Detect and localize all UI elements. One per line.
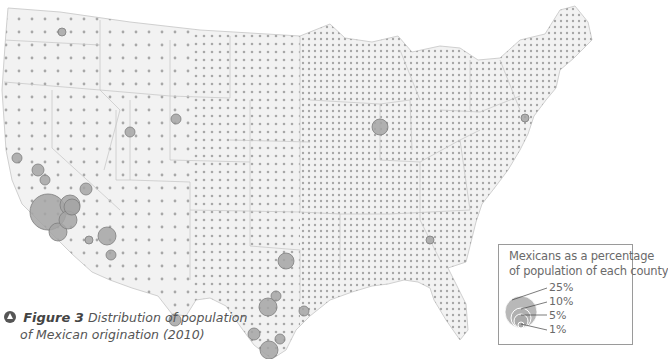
county-symbol bbox=[32, 164, 44, 176]
legend-circle-1 bbox=[518, 322, 524, 328]
county-symbol bbox=[85, 236, 93, 244]
county-symbol bbox=[372, 119, 388, 135]
legend-label-10: 10% bbox=[549, 295, 573, 308]
legend-label-5: 5% bbox=[549, 309, 566, 322]
county-symbol bbox=[299, 306, 309, 316]
legend-label-25: 25% bbox=[549, 281, 573, 294]
county-symbol bbox=[40, 175, 50, 185]
county-symbol bbox=[521, 114, 529, 122]
county-symbol bbox=[275, 334, 285, 344]
county-symbol bbox=[171, 114, 181, 124]
county-symbol bbox=[106, 250, 116, 260]
county-symbol bbox=[12, 153, 22, 163]
county-symbol bbox=[248, 328, 260, 340]
county-symbol bbox=[260, 341, 278, 359]
figure-title-line1: Distribution of population bbox=[88, 310, 247, 325]
legend: Mexicans as a percentage of population o… bbox=[498, 244, 633, 345]
figure-label: Figure 3 bbox=[23, 310, 84, 325]
county-symbol bbox=[58, 28, 66, 36]
county-symbol bbox=[426, 236, 434, 244]
legend-label-1: 1% bbox=[549, 323, 566, 336]
county-symbol bbox=[64, 199, 80, 215]
county-symbol bbox=[278, 253, 294, 269]
figure-caption: Figure 3 Distribution of population of M… bbox=[4, 309, 247, 343]
county-symbol bbox=[98, 227, 116, 245]
county-symbol bbox=[125, 127, 135, 137]
triangle-up-icon bbox=[4, 311, 16, 323]
county-symbol bbox=[271, 291, 281, 301]
county-symbol bbox=[80, 183, 92, 195]
figure-title-line2: of Mexican origination (2010) bbox=[20, 327, 205, 342]
